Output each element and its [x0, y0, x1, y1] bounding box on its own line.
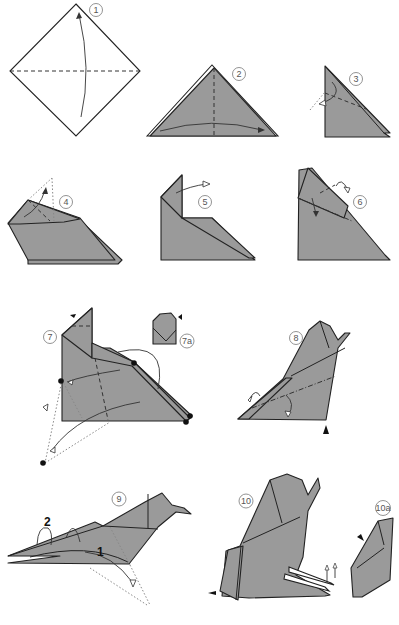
svg-text:5: 5 — [202, 197, 207, 207]
origami-diagram: 1 2 3 4 — [0, 0, 399, 625]
svg-text:2: 2 — [236, 69, 241, 79]
step-7a-figure — [153, 313, 182, 344]
step-10a-number: 10a — [375, 501, 390, 516]
step-10a-figure — [351, 518, 393, 597]
svg-text:3: 3 — [353, 74, 358, 84]
step-7a-number: 7a — [180, 334, 194, 348]
step-9-sub-step-1: 1 — [97, 545, 104, 559]
svg-text:7a: 7a — [182, 336, 192, 346]
step-6-number: 6 — [354, 196, 367, 209]
step-5-number: 5 — [199, 196, 212, 209]
svg-text:4: 4 — [63, 197, 68, 207]
svg-text:8: 8 — [293, 333, 298, 343]
step-2-figure — [147, 65, 278, 136]
svg-text:6: 6 — [357, 197, 362, 207]
svg-text:10a: 10a — [375, 503, 390, 513]
svg-text:9: 9 — [116, 494, 121, 504]
step-10-number: 10 — [239, 494, 253, 508]
step-1-number: 1 — [90, 4, 103, 17]
step-4-figure — [8, 178, 122, 264]
svg-text:10: 10 — [241, 496, 251, 506]
step-5-figure — [161, 175, 255, 260]
step-7-number: 7 — [44, 331, 57, 344]
step-8-number: 8 — [290, 332, 303, 345]
step-6-figure — [298, 168, 390, 260]
step-3-number: 3 — [350, 73, 363, 86]
step-1-figure — [10, 4, 140, 136]
step-9-number: 9 — [112, 492, 126, 506]
step-2-number: 2 — [233, 68, 246, 81]
step-10-figure — [208, 474, 337, 600]
svg-text:1: 1 — [93, 5, 98, 15]
step-9-sub-step-2: 2 — [44, 515, 51, 529]
svg-text:7: 7 — [47, 332, 52, 342]
step-4-number: 4 — [60, 196, 73, 209]
